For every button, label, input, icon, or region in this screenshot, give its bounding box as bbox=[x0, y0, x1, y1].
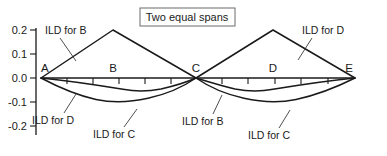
leader-ild-c-right bbox=[279, 110, 290, 128]
leader-ild-c-left bbox=[124, 109, 137, 127]
annotation-ild-for-d-left: ILD for D bbox=[32, 114, 74, 126]
y-tick-label-0.1: 0.1 bbox=[12, 48, 27, 60]
support-point-labels: A B C D E bbox=[41, 62, 353, 74]
annotation-ild-for-c-right: ILD for C bbox=[248, 129, 290, 141]
point-label-c: C bbox=[192, 62, 200, 74]
leader-ild-d-left bbox=[64, 94, 76, 113]
y-tick-label-neg0.1: -0.1 bbox=[8, 96, 27, 108]
y-tick-label-neg0.2: -0.2 bbox=[8, 120, 27, 132]
annotation-ild-for-c-left: ILD for C bbox=[93, 128, 135, 140]
y-tick-label-0.2: 0.2 bbox=[12, 24, 27, 36]
point-label-b: B bbox=[109, 62, 117, 74]
leader-ild-b-right bbox=[213, 95, 222, 114]
annotation-ild-for-b-right: ILD for B bbox=[182, 115, 223, 127]
annotation-ild-for-d-right: ILD for D bbox=[302, 24, 344, 36]
point-label-a: A bbox=[41, 62, 49, 74]
chart-canvas: 0.2 0.1 0.0 -0.1 -0.2 A B C D bbox=[0, 0, 387, 156]
ild-chart-figure: 0.2 0.1 0.0 -0.1 -0.2 A B C D bbox=[0, 0, 387, 156]
curve-ild-for-d bbox=[41, 30, 355, 91]
annotation-ild-for-b-left: ILD for B bbox=[45, 24, 86, 36]
y-tick-label-0.0: 0.0 bbox=[12, 72, 27, 84]
title-box: Two equal spans bbox=[140, 8, 235, 26]
curve-ild-for-c bbox=[41, 78, 355, 102]
curve-ild-for-b bbox=[41, 30, 355, 91]
chart-title: Two equal spans bbox=[146, 11, 229, 23]
leader-ild-b-left bbox=[60, 38, 76, 61]
leader-ild-d-right bbox=[298, 38, 312, 60]
point-label-d: D bbox=[269, 62, 277, 74]
